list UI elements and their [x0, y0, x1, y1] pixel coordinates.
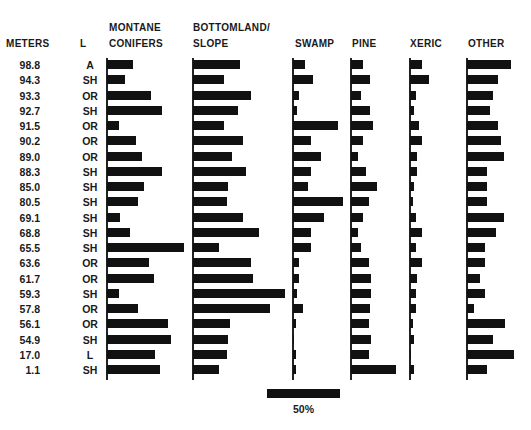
bottomland-slope-bar	[193, 365, 219, 374]
pine-bar	[351, 167, 366, 176]
header-pine: PINE	[352, 37, 377, 50]
montane-conifers-bar	[107, 75, 125, 84]
montane-conifers-bar	[107, 152, 142, 161]
swamp-bar	[293, 289, 297, 298]
depth-label: 98.8	[0, 59, 40, 71]
depth-label: 65.5	[0, 242, 40, 254]
bottomland-slope-bar	[193, 152, 232, 161]
other-bar	[467, 243, 485, 252]
xeric-bar	[410, 274, 417, 283]
pine-bar	[351, 335, 371, 344]
bottomland-slope-bar	[193, 213, 243, 222]
swamp-bar	[293, 197, 343, 206]
montane-conifers-bar	[107, 167, 162, 176]
swamp-bar	[293, 91, 299, 100]
lithology-label: SH	[78, 334, 102, 346]
other-bar	[467, 197, 487, 206]
depth-label: 89.0	[0, 151, 40, 163]
swamp-bar	[293, 228, 311, 237]
montane-conifers-bar	[107, 136, 136, 145]
montane-conifers-bar	[107, 350, 155, 359]
pine-bar	[351, 274, 371, 283]
depth-label: 63.6	[0, 257, 40, 269]
header-meters: METERS	[6, 37, 49, 50]
swamp-bar	[293, 365, 296, 374]
montane-conifers-bar	[107, 197, 138, 206]
other-bar	[467, 350, 514, 359]
depth-label: 90.2	[0, 135, 40, 147]
pine-bar	[351, 197, 369, 206]
depth-label: 93.3	[0, 90, 40, 102]
swamp-bar	[293, 304, 303, 313]
lithology-label: OR	[78, 303, 102, 315]
depth-label: 1.1	[0, 364, 40, 376]
swamp-bar	[293, 350, 296, 359]
other-bar	[467, 304, 474, 313]
montane-conifers-bar	[107, 319, 168, 328]
header-montane-line1: MONTANE	[109, 21, 163, 34]
bottomland-slope-bar	[193, 182, 228, 191]
bottomland-slope-bar	[193, 106, 238, 115]
pine-bar	[351, 243, 361, 252]
swamp-bar	[293, 60, 305, 69]
swamp-bar	[293, 274, 299, 283]
pine-bar	[351, 121, 373, 130]
swamp-bar	[293, 106, 297, 115]
pine-bar	[351, 258, 369, 267]
lithology-label: SH	[78, 288, 102, 300]
depth-label: 17.0	[0, 349, 40, 361]
xeric-bar	[410, 121, 419, 130]
xeric-bar	[410, 167, 417, 176]
lithology-label: SH	[78, 196, 102, 208]
lithology-label: SH	[78, 212, 102, 224]
other-bar	[467, 136, 501, 145]
montane-conifers-bar	[107, 228, 130, 237]
xeric-bar	[410, 319, 413, 328]
depth-label: 54.9	[0, 334, 40, 346]
lithology-label: SH	[78, 105, 102, 117]
xeric-bar	[410, 182, 414, 191]
lithology-label: SH	[78, 227, 102, 239]
pine-bar	[351, 136, 363, 145]
lithology-label: SH	[78, 242, 102, 254]
other-bar	[467, 213, 504, 222]
swamp-bar	[293, 167, 311, 176]
header-bottomland-line1: BOTTOMLAND/	[193, 21, 270, 34]
montane-conifers-bar	[107, 304, 138, 313]
swamp-bar	[293, 335, 294, 344]
lithology-label: OR	[78, 90, 102, 102]
pine-bar	[351, 319, 369, 328]
montane-conifers-bar	[107, 258, 149, 267]
xeric-bar	[410, 152, 417, 161]
lithology-label: SH	[78, 181, 102, 193]
other-bar	[467, 167, 487, 176]
other-bar	[467, 335, 493, 344]
depth-label: 61.7	[0, 273, 40, 285]
xeric-bar	[410, 136, 422, 145]
swamp-bar	[293, 75, 313, 84]
lithology-label: SH	[78, 364, 102, 376]
montane-conifers-bar	[107, 121, 119, 130]
montane-conifers-bar	[107, 106, 162, 115]
swamp-bar	[293, 182, 308, 191]
lithology-label: OR	[78, 120, 102, 132]
xeric-bar	[410, 304, 416, 313]
other-bar	[467, 274, 480, 283]
swamp-bar	[293, 243, 311, 252]
swamp-bar	[293, 213, 324, 222]
pine-bar	[351, 182, 377, 191]
other-bar	[467, 75, 498, 84]
pine-bar	[351, 350, 369, 359]
depth-label: 88.3	[0, 166, 40, 178]
bottomland-slope-bar	[193, 167, 246, 176]
montane-conifers-bar	[107, 274, 154, 283]
pine-bar	[351, 75, 370, 84]
xeric-bar	[410, 335, 414, 344]
header-other: OTHER	[468, 37, 505, 50]
other-bar	[467, 319, 505, 328]
xeric-bar	[410, 75, 429, 84]
depth-label: 85.0	[0, 181, 40, 193]
xeric-bar	[410, 365, 414, 374]
bottomland-slope-bar	[193, 274, 253, 283]
pine-bar	[351, 228, 358, 237]
